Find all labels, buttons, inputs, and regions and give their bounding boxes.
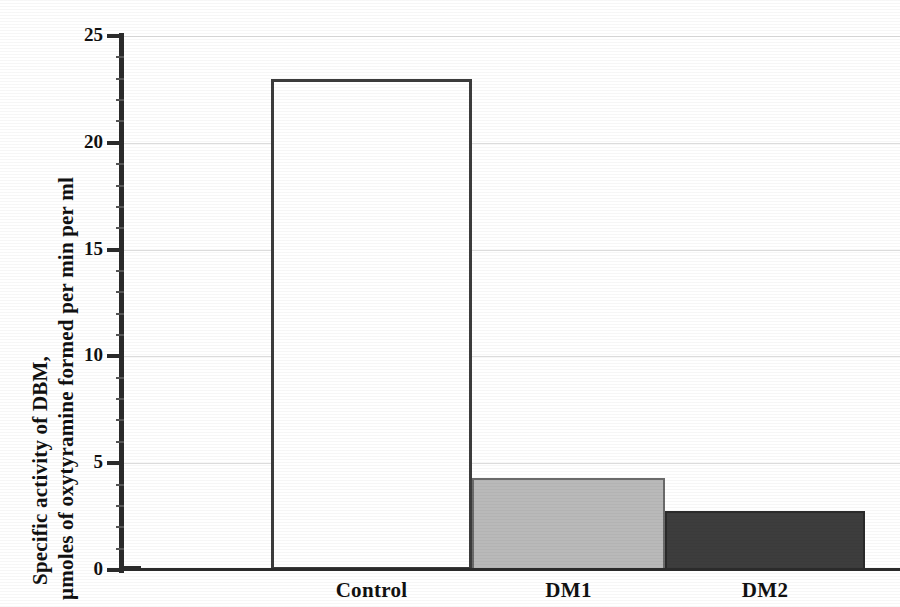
bar-control — [271, 79, 472, 570]
y-tick-mark — [107, 354, 124, 358]
y-tick-mark — [107, 141, 124, 145]
gridline — [123, 250, 900, 251]
y-tick-label-wrap: 25 — [55, 24, 103, 46]
y-tick-mark — [107, 34, 124, 38]
y-tick-label-wrap: 10 — [55, 344, 103, 366]
y-tick-label-wrap: 0 — [55, 558, 103, 580]
y-tick-minor — [116, 334, 124, 336]
y-tick-minor — [116, 206, 124, 208]
y-tick-mark — [107, 568, 124, 572]
y-tick-minor — [116, 56, 124, 58]
x-axis-label-dm2: DM2 — [665, 578, 865, 603]
y-tick-minor — [116, 120, 124, 122]
bar-dm1 — [472, 478, 665, 570]
y-tick-minor — [116, 505, 124, 507]
y-tick-label: 15 — [63, 238, 103, 260]
y-tick-minor — [116, 163, 124, 165]
y-tick-minor — [116, 398, 124, 400]
y-axis-title-line-1: Specific activity of DBM, — [28, 25, 53, 585]
y-tick-minor — [116, 270, 124, 272]
plot-area — [123, 36, 900, 570]
y-tick-label-wrap: 20 — [55, 131, 103, 153]
y-tick-minor — [116, 526, 124, 528]
y-tick-minor — [116, 484, 124, 486]
x-axis-label-dm1: DM1 — [472, 578, 665, 603]
gridline — [123, 356, 900, 357]
y-axis-line — [119, 33, 124, 573]
y-tick-minor — [116, 227, 124, 229]
y-tick-minor — [116, 419, 124, 421]
gridline — [123, 463, 900, 464]
y-tick-label-wrap: 15 — [55, 238, 103, 260]
y-tick-minor — [116, 441, 124, 443]
x-axis-label-control: Control — [271, 578, 472, 603]
y-tick-minor — [116, 78, 124, 80]
y-tick-label: 5 — [63, 451, 103, 473]
y-tick-mark — [107, 248, 124, 252]
y-axis-title: Specific activity of DBM, µmoles of oxyt… — [0, 0, 70, 607]
y-tick-minor — [116, 185, 124, 187]
y-tick-minor — [116, 291, 124, 293]
y-tick-minor — [116, 548, 124, 550]
y-tick-minor — [116, 313, 124, 315]
gridline — [123, 143, 900, 144]
y-tick-minor — [116, 377, 124, 379]
y-tick-label: 25 — [63, 24, 103, 46]
x-axis-line — [119, 568, 900, 571]
bar-chart-figure: Specific activity of DBM, µmoles of oxyt… — [0, 0, 900, 607]
y-tick-label: 20 — [63, 131, 103, 153]
y-tick-minor — [116, 99, 124, 101]
bar-dm2 — [665, 511, 865, 570]
y-tick-mark — [107, 461, 124, 465]
gridline — [123, 36, 900, 37]
y-tick-label: 10 — [63, 344, 103, 366]
y-tick-label: 0 — [63, 558, 103, 580]
y-axis-title-line-2: µmoles of oxytyramine formed per min per… — [54, 10, 79, 600]
y-tick-label-wrap: 5 — [55, 451, 103, 473]
